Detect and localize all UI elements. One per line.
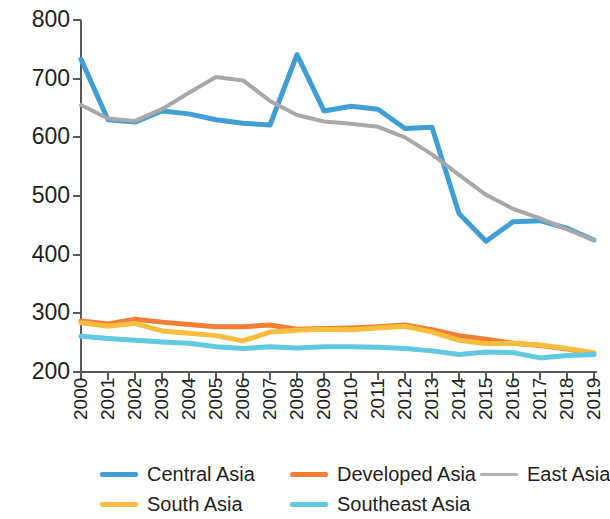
legend-item-label: Central Asia (147, 463, 255, 485)
x-axis-tick-label: 2016 (502, 378, 524, 448)
x-axis-tick-label: 2017 (529, 378, 551, 448)
series-line-central-asia (81, 55, 594, 242)
legend-item-label: Developed Asia (337, 463, 476, 485)
legend-item-southeast-asia[interactable]: Southeast Asia (290, 490, 470, 518)
x-axis-tick-label: 2014 (448, 378, 470, 448)
chart-legend: Central AsiaDeveloped AsiaEast Asia Sout… (0, 458, 605, 519)
x-axis-tick-label: 2001 (97, 378, 119, 448)
legend-item-developed-asia[interactable]: Developed Asia (290, 460, 476, 488)
x-axis-tick-label: 2006 (232, 378, 254, 448)
y-axis-tick-label: 500 (8, 184, 70, 207)
x-axis-tick-label: 2000 (70, 378, 92, 448)
x-axis-tick-label: 2010 (340, 378, 362, 448)
legend-item-label: East Asia (527, 463, 610, 485)
x-axis-tick-labels: 2000200120022003200420052006200720082009… (0, 378, 605, 456)
x-axis-tick-label: 2003 (151, 378, 173, 448)
legend-swatch-icon (100, 472, 138, 477)
y-axis-tick-label: 700 (8, 67, 70, 90)
x-axis-tick-label: 2008 (286, 378, 308, 448)
legend-swatch-icon (290, 472, 328, 477)
x-axis-tick-label: 2004 (178, 378, 200, 448)
legend-swatch-icon (100, 502, 138, 507)
x-axis-tick-label: 2005 (205, 378, 227, 448)
data-series-group (81, 55, 594, 358)
x-axis-tick-label: 2011 (367, 378, 389, 448)
x-axis-tick-label: 2013 (421, 378, 443, 448)
legend-row: South AsiaSoutheast Asia (0, 490, 605, 518)
x-axis-tick-label: 2007 (259, 378, 281, 448)
legend-item-label: Southeast Asia (337, 493, 470, 515)
y-axis-tick-label: 600 (8, 125, 70, 148)
series-line-east-asia (81, 77, 594, 240)
legend-item-central-asia[interactable]: Central Asia (100, 460, 255, 488)
legend-row: Central AsiaDeveloped AsiaEast Asia (0, 460, 605, 488)
legend-item-label: South Asia (147, 493, 243, 515)
legend-item-east-asia[interactable]: East Asia (480, 460, 610, 488)
x-axis-tick-label: 2019 (583, 378, 605, 448)
y-axis-tick-label: 800 (8, 8, 70, 31)
x-axis-tick-label: 2015 (475, 378, 497, 448)
x-axis-tick-label: 2018 (556, 378, 578, 448)
x-axis-tick-label: 2002 (124, 378, 146, 448)
legend-swatch-icon (290, 502, 328, 507)
legend-swatch-icon (480, 473, 518, 476)
x-axis-tick-label: 2009 (313, 378, 335, 448)
y-axis-tick-label: 400 (8, 243, 70, 266)
y-axis-tick-labels: 200300400500600700800 (0, 0, 70, 400)
legend-item-south-asia[interactable]: South Asia (100, 490, 243, 518)
x-axis-tick-label: 2012 (394, 378, 416, 448)
y-axis-tick-label: 300 (8, 301, 70, 324)
series-line-southeast-asia (81, 336, 594, 358)
